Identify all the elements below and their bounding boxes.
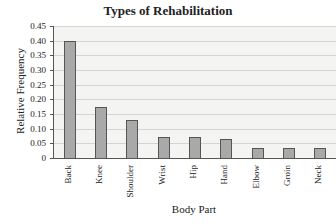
x-tick-label: Groin — [282, 165, 292, 186]
chart-title: Types of Rehabilitation — [0, 3, 336, 19]
gridline — [54, 70, 336, 71]
y-tick-label: 0 — [4, 153, 46, 163]
gridline — [54, 85, 336, 86]
y-tick-label: 0.45 — [4, 21, 46, 31]
y-tick — [50, 26, 54, 27]
y-tick — [50, 70, 54, 71]
bar-shoulder — [126, 120, 138, 158]
y-tick — [50, 158, 54, 159]
bar-hip — [189, 137, 201, 158]
y-tick — [50, 85, 54, 86]
bar-hand — [220, 139, 232, 158]
y-tick — [50, 99, 54, 100]
x-tick-label: Wrist — [157, 165, 167, 185]
plot-area — [53, 26, 336, 159]
y-tick — [50, 55, 54, 56]
x-tick-label: Elbow — [251, 165, 261, 189]
x-tick-label: Shoulder — [125, 165, 135, 198]
y-tick — [50, 129, 54, 130]
gridline — [54, 26, 336, 27]
y-tick — [50, 41, 54, 42]
y-tick-label: 0.10 — [4, 124, 46, 134]
y-tick-label: 0.05 — [4, 138, 46, 148]
x-tick-label: Neck — [313, 165, 323, 184]
y-tick-label: 0.35 — [4, 50, 46, 60]
y-tick — [50, 143, 54, 144]
bar-groin — [283, 148, 295, 158]
gridline — [54, 41, 336, 42]
bar-neck — [314, 148, 326, 158]
y-tick — [50, 114, 54, 115]
y-tick-label: 0.30 — [4, 65, 46, 75]
x-tick-label: Back — [63, 165, 73, 184]
bar-elbow — [252, 148, 264, 158]
x-tick-label: Knee — [94, 165, 104, 184]
y-tick-label: 0.25 — [4, 80, 46, 90]
y-tick-label: 0.15 — [4, 109, 46, 119]
gridline — [54, 55, 336, 56]
bar-knee — [95, 107, 107, 158]
bar-back — [64, 41, 76, 158]
y-tick-label: 0.40 — [4, 36, 46, 46]
y-tick-label: 0.20 — [4, 94, 46, 104]
x-tick-label: Hip — [188, 165, 198, 179]
x-tick-label: Hand — [219, 165, 229, 185]
bar-wrist — [158, 137, 170, 158]
x-axis-title: Body Part — [53, 203, 335, 215]
gridline — [54, 99, 336, 100]
